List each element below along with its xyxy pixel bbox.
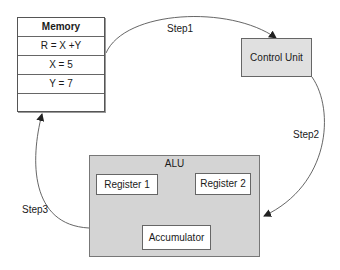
step3-label: Step3 [22, 204, 48, 215]
memory-row: X = 5 [18, 56, 104, 75]
step2-label: Step2 [293, 129, 319, 140]
memory-row: Y = 7 [18, 75, 104, 94]
cpu-diagram: Memory R = X +Y X = 5 Y = 7 Control Unit… [0, 0, 340, 270]
step1-label: Step1 [167, 23, 193, 34]
memory-row-empty [18, 94, 104, 113]
memory-title: Memory [18, 18, 104, 37]
accumulator-box: Accumulator [142, 225, 211, 250]
memory-box: Memory R = X +Y X = 5 Y = 7 [17, 17, 105, 112]
alu-label: ALU [90, 158, 259, 169]
step2-arrow [264, 77, 324, 216]
register1-box: Register 1 [96, 174, 158, 195]
memory-row: R = X +Y [18, 37, 104, 56]
register2-box: Register 2 [195, 173, 251, 195]
alu-box: ALU Register 1 Register 2 Accumulator [89, 155, 260, 257]
control-unit-box: Control Unit [241, 38, 312, 77]
